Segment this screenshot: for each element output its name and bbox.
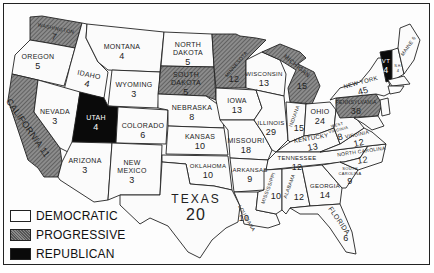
label-wisconsin: WISCONSIN13 xyxy=(245,70,282,88)
label-oklahoma: OKLAHOMA10 xyxy=(190,162,226,180)
label-vermont: VT4 xyxy=(382,57,390,75)
legend-item-republican: REPUBLICAN xyxy=(10,244,126,263)
label-utah: UTAH4 xyxy=(86,114,106,132)
label-arkansas: ARKANSAS9 xyxy=(232,166,267,184)
label-south-carolina: SOUTH CAROLINA9 xyxy=(337,166,363,186)
state-new-jersey xyxy=(380,98,390,116)
label-georgia: GEORGIA14 xyxy=(310,182,340,200)
label-north-dakota: NORTH DAKOTA5 xyxy=(170,41,206,67)
label-new-mexico: NEW MEXICO3 xyxy=(115,159,149,185)
label-indiana-votes: 15 xyxy=(294,123,305,133)
label-colorado: COLORADO6 xyxy=(122,122,164,140)
label-iowa: IOWA13 xyxy=(227,97,247,115)
progressive-swatch xyxy=(10,229,31,241)
label-minnesota-votes: 12 xyxy=(229,74,240,84)
label-new-hampshire: N.H.4 xyxy=(394,64,401,73)
legend-label: REPUBLICAN xyxy=(36,247,115,261)
legend-item-progressive: PROGRESSIVE xyxy=(10,225,126,244)
label-alabama-votes: 12 xyxy=(294,192,305,202)
label-missouri: MISSOURI18 xyxy=(227,137,264,155)
label-ohio: OHIO24 xyxy=(310,108,329,126)
legend-item-democratic: DEMOCRATIC xyxy=(10,206,126,225)
label-louisiana-votes: 10 xyxy=(239,213,250,223)
label-south-dakota: SOUTH DAKOTA5 xyxy=(168,71,204,97)
label-pennsylvania: PENNSYLVANIA38 xyxy=(335,98,376,116)
label-florida-votes: 6 xyxy=(343,233,348,243)
democratic-swatch xyxy=(10,210,31,222)
state-connecticut-ri xyxy=(388,86,404,94)
map-legend: DEMOCRATIC PROGRESSIVE REPUBLICAN xyxy=(10,206,126,263)
label-michigan-votes: 15 xyxy=(297,81,308,91)
label-wyoming: WYOMING3 xyxy=(115,81,152,99)
label-kansas: KANSAS10 xyxy=(185,133,215,151)
label-texas: TEXAS20 xyxy=(171,193,220,223)
label-nebraska: NEBRASKA8 xyxy=(172,104,213,122)
label-arizona: ARIZONA3 xyxy=(68,157,101,175)
legend-label: DEMOCRATIC xyxy=(36,209,118,223)
label-oregon: OREGON5 xyxy=(22,53,55,71)
label-nevada: NEVADA3 xyxy=(40,108,70,126)
label-tennessee: TENNESSEE12 xyxy=(277,154,316,172)
label-mississippi-votes: 10 xyxy=(271,191,282,201)
republican-swatch xyxy=(10,248,31,260)
label-illinois: ILLINOIS29 xyxy=(257,119,284,137)
legend-label: PROGRESSIVE xyxy=(36,228,126,242)
label-montana: MONTANA4 xyxy=(104,43,141,61)
